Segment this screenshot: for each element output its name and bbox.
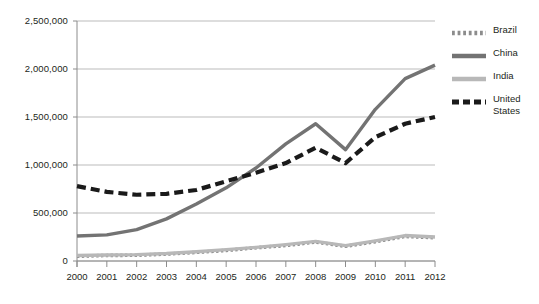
y-axis-tick-label: 1,500,000	[0, 112, 68, 122]
y-axis-tick-label: 2,000,000	[0, 64, 68, 74]
series-lines	[77, 65, 435, 256]
series-line-united-states	[77, 117, 435, 195]
legend-item-china[interactable]: China	[452, 47, 538, 60]
legend-item-brazil[interactable]: Brazil	[452, 24, 538, 37]
legend-label: India	[493, 70, 514, 82]
series-line-india	[77, 236, 435, 256]
line-chart: 2,500,0002,000,0001,500,0001,000,000500,…	[0, 0, 539, 304]
y-axis-tick-label: 1,000,000	[0, 160, 68, 170]
legend-key-brazil-icon	[452, 25, 486, 37]
legend-item-united-states[interactable]: United States	[452, 93, 538, 116]
legend-key-united-states-icon	[452, 94, 486, 106]
legend-label: China	[493, 47, 518, 59]
legend-label: United States	[493, 93, 520, 116]
x-tick-marks	[77, 261, 435, 267]
legend-item-india[interactable]: India	[452, 70, 538, 83]
legend-key-india-icon	[452, 71, 486, 83]
legend-label: Brazil	[493, 24, 517, 36]
x-axis-tick-label: 2012	[418, 272, 452, 282]
y-axis-tick-label: 500,000	[0, 208, 68, 218]
y-axis-tick-label: 0	[0, 256, 68, 266]
chart-legend: BrazilChinaIndiaUnited States	[452, 24, 538, 126]
gridlines	[77, 21, 435, 261]
legend-key-china-icon	[452, 48, 486, 60]
y-axis-tick-label: 2,500,000	[0, 16, 68, 26]
series-line-china	[77, 65, 435, 236]
